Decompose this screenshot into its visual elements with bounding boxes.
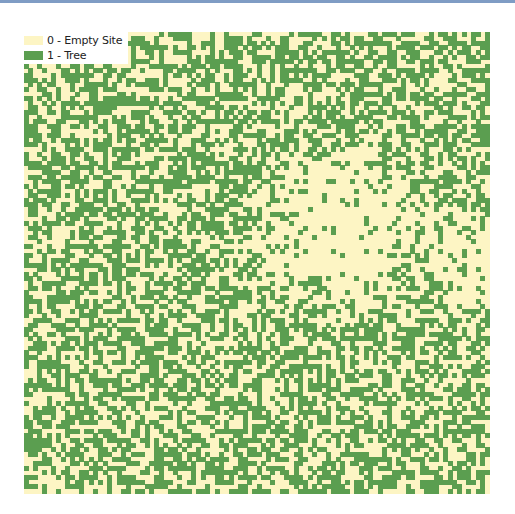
legend-item-tree: 1 - Tree: [24, 48, 86, 62]
window-top-border: [0, 0, 515, 3]
legend-item-empty: 0 - Empty Site: [24, 33, 122, 47]
legend: 0 - Empty Site 1 - Tree: [22, 31, 128, 64]
legend-label-tree: 1 - Tree: [47, 49, 86, 62]
tree-swatch-icon: [24, 51, 43, 60]
tree-grid-heatmap: [24, 32, 490, 494]
legend-label-empty: 0 - Empty Site: [47, 34, 122, 47]
empty-site-swatch-icon: [24, 36, 43, 45]
